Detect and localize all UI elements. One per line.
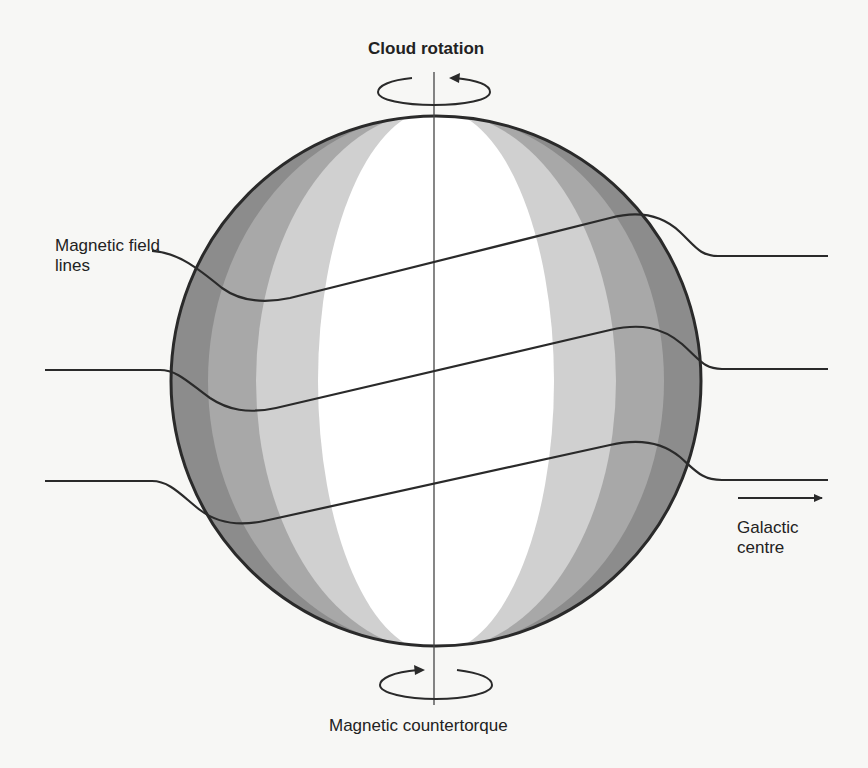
galactic-centre-label: Galactic centre [737, 518, 827, 558]
countertorque-arrow-icon [380, 665, 492, 699]
cloud-magnetic-braking-diagram [0, 0, 868, 768]
magnetic-countertorque-label: Magnetic countertorque [329, 716, 508, 736]
cloud-rotation-label: Cloud rotation [368, 39, 484, 59]
field-lines-label: Magnetic field lines [55, 236, 175, 276]
cloud-sphere [160, 109, 720, 655]
